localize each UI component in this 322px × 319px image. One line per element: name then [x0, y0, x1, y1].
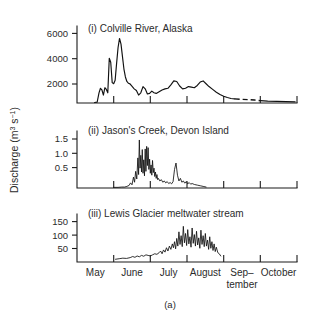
panel-i-xticks [114, 96, 297, 103]
panel-lewis-glacier: (iii) Lewis Glacier meltwater stream 150… [52, 208, 297, 262]
panel-ii-title: (ii) Jason's Creek, Devon Island [88, 125, 229, 136]
panel-i-ytick-4000: 4000 [47, 53, 68, 64]
panel-ii-ytick-1-5: 1.5 [55, 133, 68, 144]
y-axis-title-end: ) [8, 107, 20, 111]
panel-iii-series-solid [116, 226, 221, 259]
xtick-label-june: June [121, 267, 143, 278]
panel-iii-title: (iii) Lewis Glacier meltwater stream [88, 208, 244, 219]
y-axis-title-mid: s [8, 118, 20, 126]
panel-i-series-dashed [235, 99, 261, 101]
xtick-label-october: October [261, 267, 297, 278]
xtick-label-september-line2: tember [226, 279, 258, 290]
y-axis-title-sup-minus1: −1 [9, 110, 16, 118]
xtick-label-july: July [160, 267, 178, 278]
panel-ii-ytick-0-5: 0.5 [55, 162, 68, 173]
xtick-label-may: May [86, 267, 105, 278]
y-axis-title-main: Discharge (m [8, 130, 20, 193]
panel-i-axes [77, 26, 297, 103]
panel-i-ytick-6000: 6000 [47, 28, 68, 39]
discharge-figure: Discharge (m3 s−1) (i) Colville River, A… [0, 0, 322, 319]
panel-iii-yticks: 150 100 50 [52, 216, 77, 254]
panel-iii-ytick-150: 150 [52, 216, 68, 227]
panel-i-series-solid [95, 38, 235, 102]
x-axis-month-labels: May June July August Sep– tember October [86, 267, 297, 290]
panel-colville-river: (i) Colville River, Alaska 6000 4000 200… [47, 23, 297, 103]
panel-ii-axes [77, 131, 297, 188]
y-axis-title: Discharge (m3 s−1) [8, 107, 20, 193]
figure-caption: (a) [164, 299, 176, 310]
panel-i-series-solid-tail [260, 101, 295, 102]
xtick-label-august: August [190, 267, 221, 278]
panel-iii-ytick-50: 50 [57, 243, 68, 254]
svg-text:Discharge (m3 s−1): Discharge (m3 s−1) [8, 107, 20, 193]
panel-iii-ytick-100: 100 [52, 230, 68, 241]
panel-ii-ytick-1-0: 1.0 [55, 148, 68, 159]
panel-jasons-creek: (ii) Jason's Creek, Devon Island 1.5 1.0… [55, 125, 297, 188]
panel-i-ytick-2000: 2000 [47, 78, 68, 89]
xtick-label-september-line1: Sep– [230, 267, 254, 278]
panel-i-yticks: 6000 4000 2000 [47, 28, 77, 90]
panel-ii-yticks: 1.5 1.0 0.5 [55, 133, 77, 173]
figure-canvas: Discharge (m3 s−1) (i) Colville River, A… [0, 0, 322, 319]
panel-ii-series-solid [114, 140, 206, 187]
panel-i-title: (i) Colville River, Alaska [88, 23, 193, 34]
